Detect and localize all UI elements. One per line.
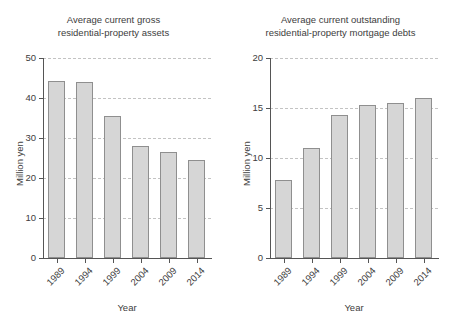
- y-tick-mark: [39, 58, 43, 59]
- x-axis-line: [270, 258, 439, 259]
- figure: Average current gross residential-proper…: [0, 0, 454, 319]
- x-tick-mark: [197, 259, 198, 263]
- x-tick-mark: [424, 259, 425, 263]
- x-tick-mark: [284, 259, 285, 263]
- y-axis-line: [270, 58, 271, 259]
- y-tick-mark: [266, 58, 270, 59]
- gridline-y: [270, 58, 438, 59]
- x-axis-title: Year: [270, 302, 438, 313]
- bar: [359, 105, 376, 258]
- y-tick-mark: [39, 178, 43, 179]
- plot-area-mortgage-debts: 05101520198919941999200420092014YearMill…: [227, 0, 454, 319]
- y-tick-label: 5: [230, 202, 263, 213]
- x-tick-mark: [312, 259, 313, 263]
- bar: [132, 146, 149, 258]
- x-tick-mark: [113, 259, 114, 263]
- x-tick-mark: [141, 259, 142, 263]
- gridline-y: [43, 58, 211, 59]
- y-tick-label: 20: [230, 52, 263, 63]
- y-axis-line: [43, 58, 44, 259]
- x-tick-mark: [57, 259, 58, 263]
- gridline-y: [43, 138, 211, 139]
- y-tick-mark: [266, 208, 270, 209]
- y-tick-label: 40: [3, 92, 36, 103]
- bar: [76, 82, 93, 258]
- x-tick-mark: [169, 259, 170, 263]
- gridline-y: [43, 98, 211, 99]
- bar: [48, 81, 65, 258]
- bar: [104, 116, 121, 258]
- bar: [331, 115, 348, 258]
- bar: [188, 160, 205, 258]
- y-tick-mark: [39, 138, 43, 139]
- gridline-y: [43, 178, 211, 179]
- x-axis-line: [43, 258, 212, 259]
- gridline-y: [43, 218, 211, 219]
- y-axis-title: Million yen: [241, 141, 252, 186]
- y-tick-mark: [39, 218, 43, 219]
- bar: [303, 148, 320, 258]
- y-tick-label: 15: [230, 102, 263, 113]
- bar: [387, 103, 404, 258]
- y-tick-mark: [39, 98, 43, 99]
- x-tick-mark: [85, 259, 86, 263]
- x-tick-mark: [368, 259, 369, 263]
- x-axis-title: Year: [43, 302, 211, 313]
- panel-gross-assets: Average current gross residential-proper…: [0, 0, 227, 319]
- x-tick-mark: [340, 259, 341, 263]
- y-tick-mark: [39, 258, 43, 259]
- y-tick-mark: [266, 158, 270, 159]
- panel-mortgage-debts: Average current outstanding residential-…: [227, 0, 454, 319]
- y-tick-label: 0: [230, 252, 263, 263]
- bar: [415, 98, 432, 258]
- y-tick-mark: [266, 108, 270, 109]
- gridline-y: [270, 158, 438, 159]
- bar: [275, 180, 292, 258]
- y-axis-title: Million yen: [14, 141, 25, 186]
- y-tick-mark: [266, 258, 270, 259]
- gridline-y: [270, 108, 438, 109]
- bar: [160, 152, 177, 258]
- x-tick-mark: [396, 259, 397, 263]
- plot-area-gross-assets: 01020304050198919941999200420092014YearM…: [0, 0, 227, 319]
- gridline-y: [270, 208, 438, 209]
- y-tick-label: 0: [3, 252, 36, 263]
- y-tick-label: 10: [3, 212, 36, 223]
- y-tick-label: 50: [3, 52, 36, 63]
